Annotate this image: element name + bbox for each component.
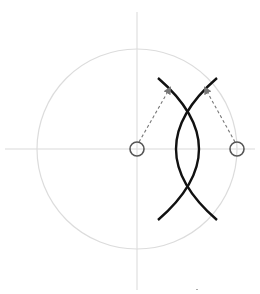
marks-group xyxy=(196,289,198,290)
arrow-from-origin xyxy=(139,88,170,142)
arrows-group xyxy=(139,88,235,142)
diagram-svg xyxy=(0,0,260,294)
tick-mark xyxy=(196,289,198,290)
diagram-canvas xyxy=(0,0,260,294)
